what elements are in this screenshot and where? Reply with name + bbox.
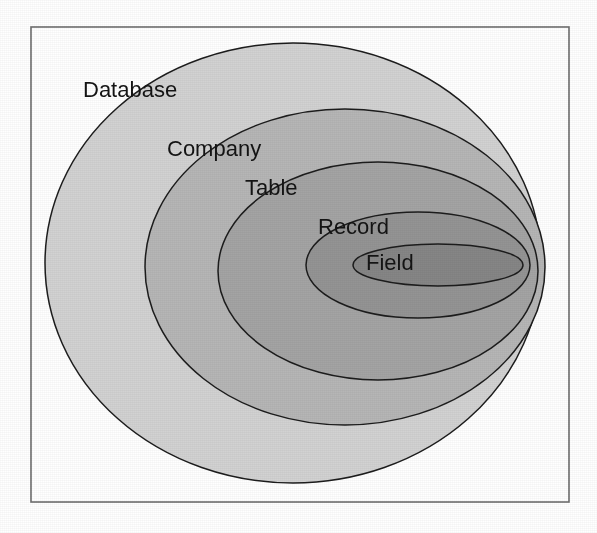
label-field: Field bbox=[366, 250, 414, 275]
label-table: Table bbox=[245, 175, 298, 200]
label-database: Database bbox=[83, 77, 177, 102]
label-company: Company bbox=[167, 136, 261, 161]
nested-ellipse-diagram: Database Company Table Record Field bbox=[0, 0, 597, 533]
label-record: Record bbox=[318, 214, 389, 239]
figure-root: Database Company Table Record Field bbox=[0, 0, 597, 533]
